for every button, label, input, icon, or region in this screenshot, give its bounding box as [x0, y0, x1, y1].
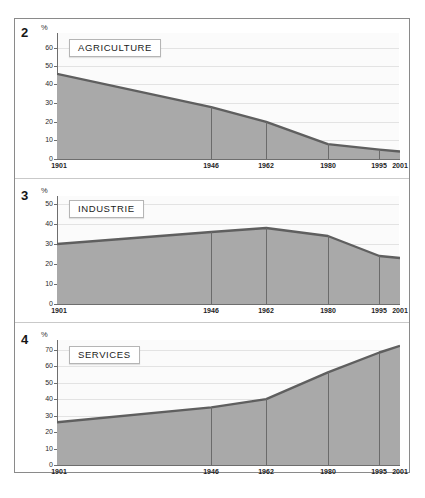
ytick-2-50: 50 — [37, 62, 53, 69]
xtick-4-2001: 2001 — [385, 468, 415, 475]
xtick-4-1946: 1946 — [196, 468, 226, 475]
ytick-3-30: 30 — [37, 240, 53, 247]
panel-separator-2 — [15, 322, 409, 323]
ytick-3-40: 40 — [37, 220, 53, 227]
y-axis-unit-3: % — [41, 186, 48, 195]
ytickmark-2-20 — [54, 122, 57, 123]
panel-number-3: 3 — [21, 188, 28, 203]
ytickmark-2-0 — [54, 159, 57, 160]
ytickmark-3-20 — [54, 264, 57, 265]
ytickmark-4-50 — [54, 383, 57, 384]
vline-4-1995 — [379, 353, 380, 465]
xtick-3-1946: 1946 — [196, 307, 226, 314]
ytickmark-4-20 — [54, 432, 57, 433]
chart-label-industrie: INDUSTRIE — [69, 200, 144, 218]
chart-label-services: SERVICES — [69, 346, 140, 364]
ytickmark-2-30 — [54, 103, 57, 104]
ytickmark-4-60 — [54, 366, 57, 367]
ytick-2-60: 60 — [37, 44, 53, 51]
ytick-3-50: 50 — [37, 200, 53, 207]
panel-number-4: 4 — [21, 332, 28, 347]
vline-4-1946 — [211, 407, 212, 465]
ytickmark-3-10 — [54, 284, 57, 285]
ytick-2-0: 0 — [37, 155, 53, 162]
ytick-3-20: 20 — [37, 260, 53, 267]
vline-3-1995 — [379, 256, 380, 304]
ytick-4-50: 50 — [37, 379, 53, 386]
panel-agriculture: 2 % 60 50 40 30 20 10 0 — [15, 19, 409, 174]
vline-3-1946 — [211, 232, 212, 304]
ytick-4-0: 0 — [37, 461, 53, 468]
ytick-3-0: 0 — [37, 300, 53, 307]
vline-3-1980 — [328, 236, 329, 304]
ytickmark-4-70 — [54, 350, 57, 351]
ytick-4-20: 20 — [37, 428, 53, 435]
figure-frame: 2 % 60 50 40 30 20 10 0 — [14, 18, 410, 473]
ytickmark-2-40 — [54, 84, 57, 85]
vline-4-1980 — [328, 372, 329, 465]
panel-number-2: 2 — [21, 25, 28, 40]
panel-services: 4 % 70 60 50 40 30 20 10 0 — [15, 326, 409, 474]
vline-4-1962 — [266, 399, 267, 465]
y-axis-unit-2: % — [41, 23, 48, 32]
ytick-4-10: 10 — [37, 445, 53, 452]
xtick-3-1962: 1962 — [251, 307, 281, 314]
xtick-4-1962: 1962 — [251, 468, 281, 475]
xtick-3-1980: 1980 — [313, 307, 343, 314]
ytick-4-30: 30 — [37, 412, 53, 419]
vline-3-1962 — [266, 228, 267, 304]
chart-label-agriculture: AGRICULTURE — [69, 39, 161, 57]
ytick-4-60: 60 — [37, 362, 53, 369]
xtick-2-1946: 1946 — [196, 162, 226, 169]
xtick-3-1901: 1901 — [44, 307, 74, 314]
ytick-2-20: 20 — [37, 118, 53, 125]
vline-2-1995 — [379, 150, 380, 159]
vline-2-1946 — [211, 107, 212, 159]
panel-separator-1 — [15, 178, 409, 179]
ytickmark-2-50 — [54, 66, 57, 67]
ytickmark-2-60 — [54, 48, 57, 49]
ytickmark-4-40 — [54, 399, 57, 400]
ytickmark-4-0 — [54, 465, 57, 466]
ytick-4-70: 70 — [37, 346, 53, 353]
ytick-4-40: 40 — [37, 395, 53, 402]
panel-industrie: 3 % 50 40 30 20 10 0 1901 1946 1962 — [15, 182, 409, 318]
vline-2-1980 — [328, 144, 329, 159]
xtick-2-1901: 1901 — [44, 162, 74, 169]
y-axis-unit-4: % — [41, 330, 48, 339]
xtick-4-1901: 1901 — [44, 468, 74, 475]
xtick-2-2001: 2001 — [385, 162, 415, 169]
ytick-2-40: 40 — [37, 80, 53, 87]
ytickmark-2-10 — [54, 140, 57, 141]
ytick-2-10: 10 — [37, 136, 53, 143]
xtick-2-1962: 1962 — [251, 162, 281, 169]
ytickmark-3-30 — [54, 244, 57, 245]
ytickmark-3-50 — [54, 204, 57, 205]
xtick-3-2001: 2001 — [385, 307, 415, 314]
ytick-2-30: 30 — [37, 99, 53, 106]
ytick-3-10: 10 — [37, 280, 53, 287]
ytickmark-3-0 — [54, 304, 57, 305]
vline-2-1962 — [266, 122, 267, 159]
ytickmark-4-10 — [54, 449, 57, 450]
xtick-4-1980: 1980 — [313, 468, 343, 475]
ytickmark-3-40 — [54, 224, 57, 225]
ytickmark-4-30 — [54, 416, 57, 417]
xtick-2-1980: 1980 — [313, 162, 343, 169]
